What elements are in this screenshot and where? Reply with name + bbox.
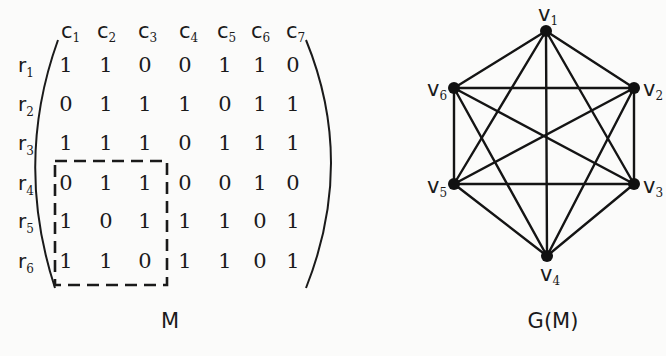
row-labels: r1 r2 r3 r4 r5 r6 (18, 53, 34, 276)
row-label: r4 (18, 171, 34, 198)
matrix-cell: 1 (178, 92, 191, 116)
graph-vertex-v4 (541, 250, 553, 262)
matrix-cell: 1 (138, 209, 151, 233)
vertex-label-v1: v1 (538, 2, 558, 28)
matrix-cell: 1 (138, 92, 151, 116)
matrix-cell: 1 (138, 131, 151, 155)
matrix-cell: 1 (286, 92, 299, 116)
graph-edge-v3-v4 (547, 184, 634, 256)
graph-edge-v1-v2 (546, 31, 634, 88)
vertex-label-v3: v3 (643, 174, 663, 200)
column-label: c4 (179, 19, 199, 45)
matrix-cell: 0 (218, 171, 231, 195)
graph-edge-v4-v5 (454, 184, 547, 256)
matrix-cell: 0 (286, 53, 299, 77)
matrix-cell: 1 (286, 209, 299, 233)
matrix-cell: 1 (178, 209, 191, 233)
matrix-caption: M (161, 309, 179, 333)
graph-edge-v1-v4 (546, 31, 547, 256)
matrix-cell: 0 (59, 171, 72, 195)
matrix-cell: 1 (99, 131, 112, 155)
vertex-label-v4: v4 (540, 262, 560, 288)
row-label: r3 (18, 131, 34, 158)
graph-edge-v1-v6 (454, 31, 546, 88)
matrix-cell: 1 (253, 53, 266, 77)
matrix-cell: 0 (178, 53, 191, 77)
matrix-cell: 1 (286, 131, 299, 155)
graph-vertex-v5 (448, 178, 460, 190)
matrix-cell: 0 (218, 92, 231, 116)
row-label: r6 (18, 249, 34, 276)
matrix-cell: 0 (59, 92, 72, 116)
column-label: c5 (217, 19, 236, 45)
matrix-cell: 0 (286, 171, 299, 195)
vertex-label-v6: v6 (427, 77, 447, 103)
column-label: c2 (97, 19, 116, 45)
matrix-cell: 1 (138, 171, 151, 195)
matrix-cell: 0 (253, 249, 266, 273)
matrix-cell: 1 (218, 249, 231, 273)
matrix-cell: 0 (253, 209, 266, 233)
matrix-cells: 1100110011101111101110110010101110111011… (59, 53, 299, 273)
graph-edges (454, 31, 634, 256)
matrix-right-parenthesis (306, 40, 331, 288)
graph-edge-v1-v5 (454, 31, 546, 184)
figure-canvas: c1 c2 c3 c4 c5 c6 c7 r1 r2 r3 r4 r5 r6 1… (0, 0, 666, 356)
matrix-cell: 1 (59, 131, 72, 155)
row-label: r1 (18, 53, 34, 80)
matrix-cell: 1 (99, 92, 112, 116)
column-label: c3 (138, 19, 157, 45)
matrix-cell: 0 (138, 53, 151, 77)
matrix-cell: 0 (178, 131, 191, 155)
column-labels: c1 c2 c3 c4 c5 c6 c7 (61, 19, 305, 45)
matrix-cell: 1 (253, 131, 266, 155)
matrix-cell: 1 (253, 92, 266, 116)
matrix-cell: 0 (178, 171, 191, 195)
matrix-cell: 1 (286, 249, 299, 273)
column-label: c1 (61, 19, 80, 45)
graph-caption: G(M) (528, 309, 579, 333)
graph-edge-v2-v4 (547, 88, 634, 256)
matrix-cell: 0 (99, 209, 112, 233)
matrix-cell: 0 (138, 249, 151, 273)
vertex-label-v5: v5 (427, 174, 447, 200)
matrix-cell: 1 (218, 53, 231, 77)
matrix-cell: 1 (178, 249, 191, 273)
row-label: r2 (18, 92, 34, 119)
matrix-cell: 1 (99, 249, 112, 273)
graph-vertex-v2 (628, 82, 640, 94)
matrix-cell: 1 (59, 209, 72, 233)
graph-vertex-v3 (628, 178, 640, 190)
graph-vertex-v6 (448, 82, 460, 94)
matrix-cell: 1 (218, 131, 231, 155)
matrix-cell: 1 (253, 171, 266, 195)
matrix-cell: 1 (218, 209, 231, 233)
matrix-cell: 1 (99, 53, 112, 77)
matrix-cell: 1 (59, 53, 72, 77)
column-label: c6 (251, 19, 270, 45)
vertex-label-v2: v2 (643, 77, 663, 103)
matrix-cell: 1 (99, 171, 112, 195)
row-label: r5 (18, 209, 34, 236)
matrix-cell: 1 (59, 249, 72, 273)
column-label: c7 (286, 19, 305, 45)
